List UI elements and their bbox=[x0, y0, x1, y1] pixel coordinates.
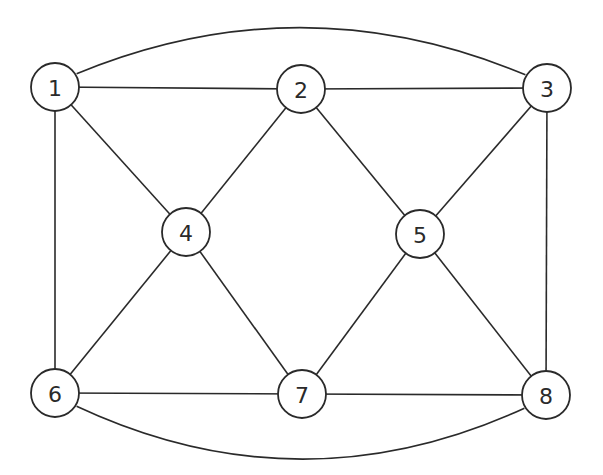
node-8: 8 bbox=[522, 371, 570, 419]
edge-5-7 bbox=[302, 234, 420, 394]
edge-6-7 bbox=[55, 393, 302, 394]
edge-1-2 bbox=[55, 87, 301, 89]
node-label: 6 bbox=[48, 382, 62, 407]
node-label: 7 bbox=[295, 383, 309, 408]
node-3: 3 bbox=[523, 64, 571, 112]
node-6: 6 bbox=[31, 369, 79, 417]
nodes-layer: 12345678 bbox=[31, 63, 571, 419]
edge-1-4 bbox=[55, 87, 186, 232]
node-label: 3 bbox=[540, 77, 554, 102]
edge-5-8 bbox=[420, 234, 546, 395]
edge-3-8 bbox=[546, 88, 547, 395]
node-7: 7 bbox=[278, 370, 326, 418]
edge-2-4 bbox=[186, 89, 301, 232]
edge-2-5 bbox=[301, 89, 420, 234]
node-label: 1 bbox=[48, 76, 62, 101]
edge-4-6 bbox=[55, 232, 186, 393]
graph-diagram: 12345678 bbox=[0, 0, 603, 475]
node-2: 2 bbox=[277, 65, 325, 113]
node-label: 2 bbox=[294, 78, 308, 103]
edge-7-8 bbox=[302, 394, 546, 395]
node-1: 1 bbox=[31, 63, 79, 111]
node-4: 4 bbox=[162, 208, 210, 256]
edge-4-7 bbox=[186, 232, 302, 394]
node-label: 5 bbox=[413, 223, 427, 248]
node-label: 8 bbox=[539, 384, 553, 409]
node-5: 5 bbox=[396, 210, 444, 258]
edge-3-5 bbox=[420, 88, 547, 234]
edge-2-3 bbox=[301, 88, 547, 89]
node-label: 4 bbox=[179, 221, 193, 246]
